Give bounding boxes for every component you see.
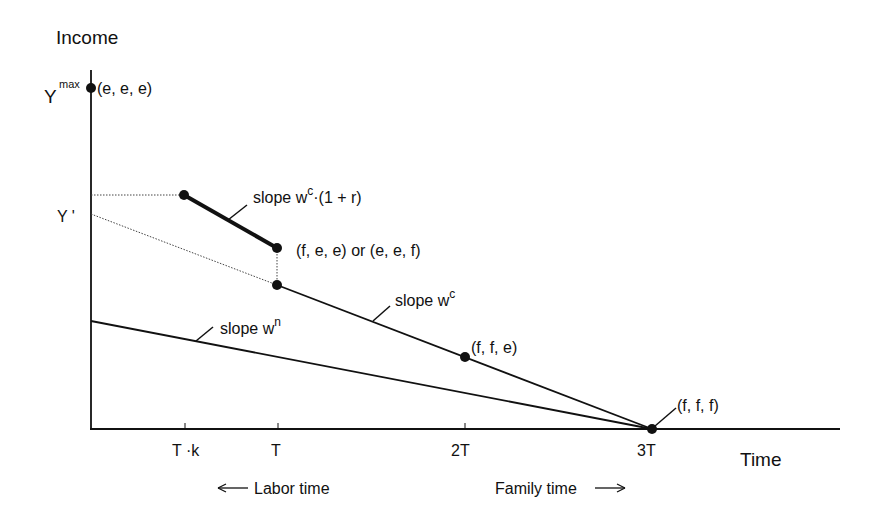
labor-time-arrow: Labor time [218, 480, 330, 497]
slope-wc-r-label: slope wc·(1 + r) [253, 184, 362, 206]
dotted-yprime-line [91, 214, 277, 285]
family-time-arrow: Family time [495, 480, 625, 497]
yprime-label: Y ' [57, 208, 75, 225]
point-fee-dot [272, 243, 282, 253]
point-tk-dot [179, 190, 189, 200]
point-ffe-dot [460, 352, 470, 362]
leader-fff [655, 408, 676, 426]
point-t-dot [272, 280, 282, 290]
ymax-label: Y [44, 86, 57, 107]
point-fee-label: (f, e, e) or (e, e, f) [296, 242, 420, 259]
labor-time-label: Labor time [254, 480, 330, 497]
tick-label-tk: T ·k [172, 442, 200, 459]
leader-wc-r [228, 205, 247, 220]
y-axis-label: Income [56, 27, 118, 48]
income-time-diagram: Income Time Y max Y ' (e, e, e) (f, e, e… [0, 0, 887, 531]
leader-wc [373, 306, 390, 321]
slope-wn-label: slope wn [220, 315, 281, 337]
tick-label-t: T [271, 442, 281, 459]
tick-label-2t: 2T [451, 442, 470, 459]
point-fff-label: (f, f, f) [677, 397, 719, 414]
x-axis-label: Time [740, 449, 782, 470]
point-ffe-label: (f, f, e) [471, 339, 517, 356]
ymax-sup: max [59, 78, 80, 90]
family-time-label: Family time [495, 480, 577, 497]
slope-wn-line [91, 321, 652, 429]
point-eee-label: (e, e, e) [97, 80, 152, 97]
point-fff-dot [647, 424, 657, 434]
slope-wc-label: slope wc [395, 287, 455, 309]
point-ymax-dot [86, 83, 96, 93]
leader-wn [196, 327, 213, 341]
tick-label-3t: 3T [637, 442, 656, 459]
